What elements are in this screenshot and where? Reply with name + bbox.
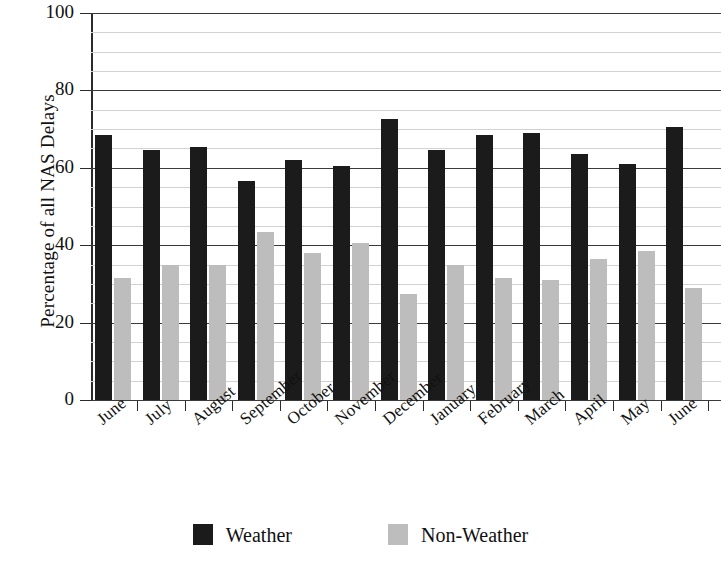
x-axis-tick: [708, 401, 709, 411]
y-axis-tick-label: 80: [16, 79, 74, 98]
legend-label: Non-Weather: [421, 525, 528, 545]
y-axis-tick: [80, 168, 91, 169]
chart-legend: WeatherNon-Weather: [0, 524, 721, 545]
legend-item-weather: Weather: [193, 524, 292, 545]
y-axis-tick-label: 20: [16, 312, 74, 331]
bar-non-weather-august-2: [209, 265, 226, 400]
bar-weather-april-10: [571, 154, 588, 400]
bar-weather-november-5: [333, 166, 350, 400]
bar-weather-july-1: [143, 150, 160, 400]
gridline-minor: [91, 32, 721, 33]
bar-weather-june-0: [95, 135, 112, 400]
gridline-major: [91, 13, 721, 14]
bar-non-weather-september-3: [257, 232, 274, 400]
bar-non-weather-july-1: [162, 265, 179, 400]
gridline-minor: [91, 110, 721, 111]
bar-non-weather-may-11: [638, 251, 655, 400]
legend-swatch-icon: [388, 524, 408, 545]
bar-non-weather-june-12: [685, 288, 702, 400]
bar-non-weather-february-8: [495, 278, 512, 400]
x-axis-tick: [137, 401, 138, 411]
x-axis-tick: [185, 401, 186, 411]
y-axis-tick: [80, 90, 91, 91]
y-axis-tick-label: 100: [16, 2, 74, 21]
y-axis-tick: [80, 400, 91, 401]
bar-weather-september-3: [238, 181, 255, 400]
plot-area: [91, 13, 721, 400]
bar-weather-january-7: [428, 150, 445, 400]
bar-non-weather-april-10: [590, 259, 607, 400]
gridline-minor: [91, 71, 721, 72]
bar-non-weather-january-7: [447, 265, 464, 400]
bar-non-weather-october-4: [304, 253, 321, 400]
bar-weather-february-8: [476, 135, 493, 400]
y-axis-tick: [80, 245, 91, 246]
legend-label: Weather: [226, 525, 292, 545]
gridline-minor: [91, 129, 721, 130]
bar-weather-august-2: [190, 147, 207, 400]
y-axis-tick-label: 60: [16, 157, 74, 176]
y-axis-tick-label: 0: [16, 389, 74, 408]
bar-non-weather-june-0: [114, 278, 131, 400]
legend-swatch-icon: [193, 524, 213, 545]
gridline-major: [91, 90, 721, 91]
gridline-minor: [91, 52, 721, 53]
gridline-minor: [91, 148, 721, 149]
y-axis-tick: [80, 13, 91, 14]
x-axis-tick: [613, 401, 614, 411]
y-axis-tick: [80, 323, 91, 324]
bar-weather-march-9: [523, 133, 540, 400]
bar-weather-june-12: [666, 127, 683, 400]
bar-weather-october-4: [285, 160, 302, 400]
y-axis-tick-label: 40: [16, 234, 74, 253]
x-axis-tick: [661, 401, 662, 411]
bar-chart: Percentage of all NAS Delays 02040608010…: [0, 0, 721, 566]
bar-non-weather-march-9: [542, 280, 559, 400]
bar-weather-may-11: [619, 164, 636, 400]
bar-non-weather-november-5: [352, 243, 369, 400]
legend-item-non-weather: Non-Weather: [388, 524, 528, 545]
bar-weather-december-6: [381, 119, 398, 400]
